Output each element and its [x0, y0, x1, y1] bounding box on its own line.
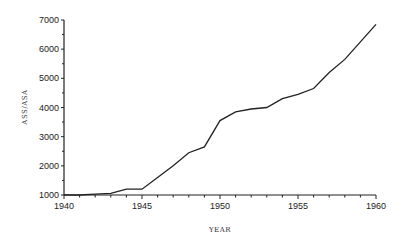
y-tick-label: 1000: [39, 190, 59, 200]
x-tick-label: 1960: [366, 201, 386, 211]
data-line: [64, 24, 376, 195]
x-tick-label: 1950: [210, 201, 230, 211]
x-tick-label: 1945: [132, 201, 152, 211]
y-tick-label: 7000: [39, 15, 59, 25]
y-tick-label: 3000: [39, 132, 59, 142]
y-tick-label: 2000: [39, 161, 59, 171]
y-tick-label: 6000: [39, 44, 59, 54]
y-tick-label: 4000: [39, 103, 59, 113]
line-chart: 1000200030004000500060007000194019451950…: [0, 0, 406, 247]
y-axis-label: ASS/ASA: [21, 89, 29, 126]
x-axis-label: YEAR: [208, 226, 231, 234]
x-tick-label: 1940: [54, 201, 74, 211]
axes: [61, 20, 376, 199]
x-tick-label: 1955: [288, 201, 308, 211]
y-tick-label: 5000: [39, 73, 59, 83]
tick-labels: 1000200030004000500060007000194019451950…: [39, 15, 386, 211]
